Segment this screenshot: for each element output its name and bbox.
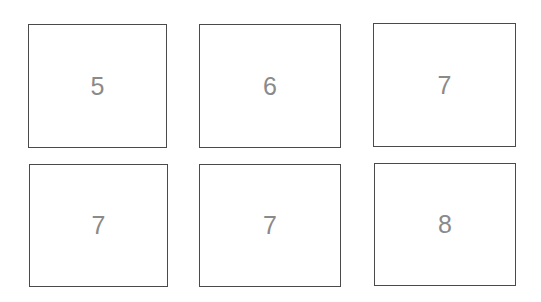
box-number: 5 (91, 72, 105, 101)
box-number: 7 (263, 211, 277, 240)
number-box-5: 7 (199, 164, 341, 287)
box-number: 8 (438, 210, 452, 239)
number-box-6: 8 (374, 163, 516, 286)
box-number: 7 (438, 71, 452, 100)
number-box-1: 5 (28, 24, 167, 148)
number-box-2: 6 (199, 24, 341, 148)
number-box-4: 7 (29, 164, 168, 287)
box-number: 6 (263, 72, 277, 101)
number-box-3: 7 (373, 23, 516, 147)
box-number: 7 (92, 211, 106, 240)
